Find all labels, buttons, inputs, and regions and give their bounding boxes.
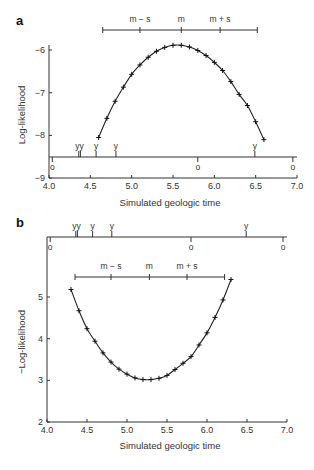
y-event-label: y bbox=[94, 141, 99, 151]
x-tick-label: 6.5 bbox=[241, 425, 254, 435]
y-event-label: y bbox=[114, 141, 119, 151]
y-tick-label: 3 bbox=[38, 375, 43, 385]
panel-b-axes: 4.04.55.05.56.06.57.02345yyyyyooo bbox=[38, 221, 293, 435]
x-tick-label: 7.0 bbox=[291, 181, 304, 191]
y-tick-label: 2 bbox=[38, 417, 43, 427]
x-tick-label: 5.0 bbox=[125, 181, 138, 191]
interval-label: m bbox=[146, 261, 153, 271]
x-tick-label: 5.0 bbox=[121, 425, 134, 435]
x-tick-label: 6.5 bbox=[249, 181, 262, 191]
o-event-label: o bbox=[195, 162, 200, 172]
interval-label: m + s bbox=[210, 14, 231, 24]
y-tick-label: −6 bbox=[35, 45, 45, 55]
y-event-label: y bbox=[110, 221, 115, 231]
interval-label: m − s bbox=[100, 261, 121, 271]
panel-a-label: a bbox=[16, 13, 24, 28]
x-tick-label: 7.0 bbox=[281, 425, 294, 435]
o-event-label: o bbox=[290, 162, 295, 172]
interval-label: m bbox=[178, 14, 185, 24]
x-tick-label: 4.5 bbox=[81, 425, 94, 435]
figure: a 4.04.55.05.56.06.57.0−6−7−8−9yyyyyooo … bbox=[0, 0, 314, 470]
y-tick-label: −9 bbox=[35, 173, 45, 183]
o-event-label: o bbox=[189, 242, 194, 252]
o-event-label: o bbox=[50, 162, 55, 172]
panel-a-y-axis-title: Log-likelihood bbox=[16, 86, 27, 145]
panel-b-y-axis-title: −Log-likelihood bbox=[16, 310, 27, 374]
panel-a-axes: 4.04.55.05.56.06.57.0−6−7−8−9yyyyyooo bbox=[35, 45, 304, 191]
y-event-label: y bbox=[244, 221, 249, 231]
y-tick-label: 4 bbox=[38, 334, 43, 344]
y-tick-label: 5 bbox=[38, 292, 43, 302]
y-event-label: yy bbox=[72, 221, 81, 231]
panel-a-chart: a 4.04.55.05.56.06.57.0−6−7−8−9yyyyyooo … bbox=[16, 13, 303, 208]
panel-b-chart: b 4.04.55.05.56.06.57.02345yyyyyooo m − … bbox=[16, 215, 293, 451]
y-tick-label: −8 bbox=[35, 130, 45, 140]
y-event-label: y bbox=[90, 221, 95, 231]
panel-b-plot: m − smm + s bbox=[69, 261, 234, 382]
x-tick-label: 5.5 bbox=[167, 181, 180, 191]
x-tick-label: 6.0 bbox=[201, 425, 214, 435]
y-tick-label: −7 bbox=[35, 88, 45, 98]
likelihood-curve bbox=[71, 279, 231, 379]
panel-b-x-axis-title: Simulated geologic time bbox=[120, 440, 221, 451]
o-event-label: o bbox=[48, 242, 53, 252]
panel-b-label: b bbox=[16, 215, 24, 230]
o-event-label: o bbox=[281, 242, 286, 252]
panel-a-plot: m − smm + s bbox=[96, 14, 266, 142]
x-tick-label: 6.0 bbox=[208, 181, 221, 191]
x-tick-label: 4.5 bbox=[84, 181, 97, 191]
interval-label: m + s bbox=[176, 261, 197, 271]
y-event-label: y bbox=[253, 141, 258, 151]
interval-label: m − s bbox=[129, 14, 150, 24]
y-event-label: yy bbox=[75, 141, 84, 151]
panel-a-x-axis-title: Simulated geologic time bbox=[120, 197, 221, 208]
x-tick-label: 5.5 bbox=[161, 425, 174, 435]
